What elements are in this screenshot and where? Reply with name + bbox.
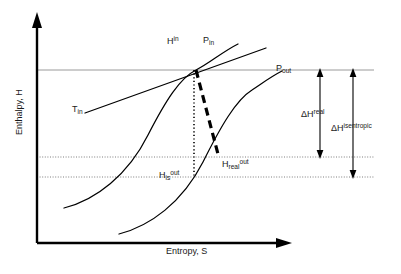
- isobar-outlet-curve: [119, 71, 282, 234]
- h-real-out-label: Hrealout: [222, 160, 249, 169]
- diagram-canvas: [0, 0, 401, 274]
- real-path-line: [196, 70, 219, 158]
- delta-h-real-arrowhead-down: [317, 150, 324, 159]
- enthalpy-axis-label: Enthalpy, H: [14, 89, 24, 135]
- entropy-axis-arrowhead: [276, 238, 292, 248]
- delta-h-isentropic-label: ΔHisentropic: [331, 124, 372, 133]
- h-in-label: Hin: [167, 37, 179, 46]
- delta-h-real-label: ΔHreal: [301, 110, 325, 119]
- delta-h-real-arrowhead-up: [317, 68, 324, 77]
- h-is-out-label: Hisout: [159, 171, 179, 180]
- delta-h-isentropic-arrowhead-up: [350, 68, 357, 77]
- isotherm-inlet-line: [85, 48, 266, 113]
- p-in-label: Pin: [203, 36, 214, 45]
- delta-h-isentropic-arrowhead-down: [350, 170, 357, 179]
- enthalpy-axis-arrowhead: [32, 12, 42, 28]
- t-in-label: Tin: [72, 105, 83, 114]
- entropy-axis-label: Entropy, S: [166, 247, 207, 256]
- p-out-label: Pout: [276, 64, 291, 73]
- enthalpy-entropy-diagram: Enthalpy, H Entropy, S Hin Pin Pout Tin …: [0, 0, 401, 274]
